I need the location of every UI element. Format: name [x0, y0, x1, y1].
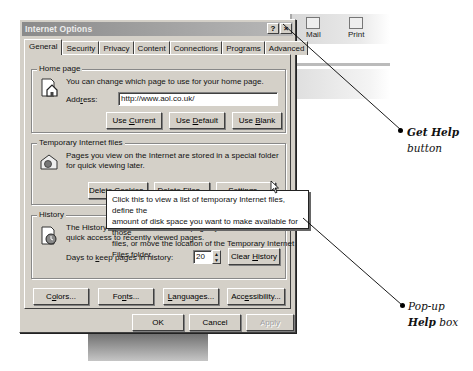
close-button[interactable]: ×: [280, 23, 292, 34]
internet-options-dialog: Internet Options ? × General Security Pr…: [19, 19, 296, 333]
home-page-icon: [39, 78, 59, 98]
tooltip-line-2: amount of disk space you want to make av…: [112, 216, 303, 238]
use-current-button[interactable]: Use Current: [106, 112, 162, 129]
help-button[interactable]: ?: [267, 23, 279, 34]
tab-privacy[interactable]: Privacy: [99, 41, 133, 55]
tooltip-line-3: files, or move the location of the Tempo…: [112, 238, 303, 260]
print-icon: [349, 17, 363, 29]
get-help-annotation: Get Help button: [407, 124, 459, 156]
popup-help-annotation-line1: Pop-up: [408, 300, 445, 312]
tooltip-line-1: Click this to view a list of temporary I…: [112, 194, 303, 216]
temporary-files-label: Temporary Internet files: [37, 138, 125, 147]
get-help-dot: [398, 128, 403, 133]
apply-button[interactable]: Apply: [246, 314, 294, 331]
temporary-files-description-1: Pages you view on the Internet are store…: [66, 151, 279, 161]
get-help-annotation-rest: button: [407, 142, 442, 154]
history-label: History: [37, 210, 66, 219]
get-help-annotation-bold: Get Help: [407, 126, 459, 138]
home-page-label: Home page: [37, 64, 82, 73]
mail-icon: [306, 17, 320, 29]
temporary-files-icon: [39, 152, 59, 172]
fonts-button[interactable]: Fonts...: [98, 288, 154, 305]
general-tab-panel: Home page You can change which page to u…: [24, 54, 291, 309]
history-icon: [39, 226, 59, 246]
popup-help-dot: [400, 303, 405, 308]
tab-strip: General Security Privacy Content Connect…: [24, 39, 308, 54]
use-default-button[interactable]: Use Default: [169, 112, 225, 129]
tab-connections[interactable]: Connections: [170, 41, 222, 55]
tab-security[interactable]: Security: [62, 41, 99, 55]
accessibility-button[interactable]: Accessibility...: [227, 288, 285, 305]
home-page-address-input[interactable]: http://www.aol.co.uk/: [118, 92, 278, 106]
browser-window: Mail Print: [290, 14, 390, 334]
popup-help-box: Click this to view a list of temporary I…: [106, 190, 309, 229]
tab-general[interactable]: General: [24, 39, 62, 55]
home-page-description: You can change which page to use for you…: [66, 77, 264, 87]
mail-label: Mail: [306, 30, 321, 39]
page-photo: [88, 333, 208, 361]
temporary-files-description-2: for quick viewing later.: [66, 161, 145, 171]
print-label: Print: [348, 30, 364, 39]
popup-help-annotation-bold: Help: [408, 316, 436, 328]
use-blank-button[interactable]: Use Blank: [232, 112, 282, 129]
print-button[interactable]: Print: [348, 17, 364, 39]
tab-content[interactable]: Content: [134, 41, 170, 55]
popup-help-annotation-rest: box: [436, 316, 458, 328]
mail-button[interactable]: Mail: [306, 17, 321, 39]
colors-button[interactable]: Colors...: [33, 288, 89, 305]
title-bar[interactable]: Internet Options ? ×: [22, 22, 293, 36]
tab-programs[interactable]: Programs: [222, 41, 265, 55]
page-banner: [290, 69, 390, 99]
dialog-title: Internet Options: [25, 24, 92, 34]
home-page-group: Home page You can change which page to u…: [31, 69, 286, 133]
languages-button[interactable]: Languages...: [163, 288, 219, 305]
cancel-button[interactable]: Cancel: [189, 314, 241, 331]
ok-button[interactable]: OK: [132, 314, 184, 331]
mouse-cursor-icon: [270, 180, 280, 194]
address-label: Address:: [66, 95, 98, 105]
popup-help-annotation: Pop-up Help box: [408, 298, 458, 330]
tab-advanced[interactable]: Advanced: [265, 41, 309, 55]
